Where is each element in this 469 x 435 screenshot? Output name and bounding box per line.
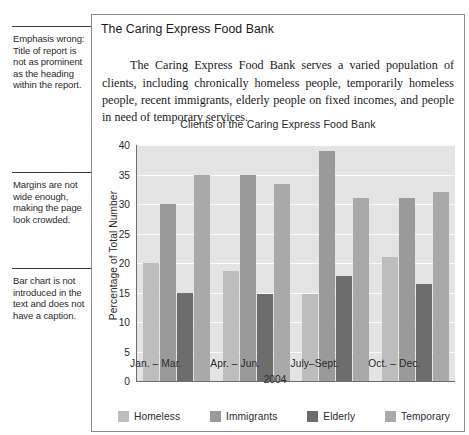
y-axis-tick-label: 20 bbox=[119, 258, 130, 269]
bar-group bbox=[296, 145, 376, 381]
legend-item-homeless: Homeless bbox=[118, 411, 180, 422]
legend-label: Elderly bbox=[323, 411, 355, 422]
bar-temporary-1 bbox=[194, 175, 210, 382]
annotation-text: Emphasis wrong: Title of report is not a… bbox=[13, 33, 89, 91]
y-axis-tick-label: 5 bbox=[124, 346, 130, 357]
legend-swatch-icon bbox=[118, 411, 129, 422]
bar-immigrants-3 bbox=[319, 151, 335, 381]
report-body-paragraph: The Caring Express Food Bank serves a va… bbox=[102, 57, 454, 127]
report-page-panel: The Caring Express Food Bank The Caring … bbox=[91, 14, 465, 432]
x-axis-tick-label: Apr. – Jun. bbox=[210, 358, 260, 369]
bar-temporary-4 bbox=[433, 192, 449, 381]
annotation-leader-line bbox=[12, 172, 92, 173]
annotation-text: Margins are not wide enough, making the … bbox=[13, 179, 89, 225]
legend-item-immigrants: Immigrants bbox=[210, 411, 277, 422]
legend-label: Homeless bbox=[134, 411, 180, 422]
legend-swatch-icon bbox=[210, 411, 221, 422]
bar-immigrants-4 bbox=[399, 198, 415, 381]
annotation-column: Emphasis wrong: Title of report is not a… bbox=[0, 0, 92, 435]
legend-label: Immigrants bbox=[226, 411, 277, 422]
chart-x-axis-ticks: Jan. – Mar.Apr. – Jun.July–Sept.Oct. – D… bbox=[116, 358, 434, 374]
chart-x-axis-label: 2004 bbox=[116, 374, 434, 385]
x-axis-tick-label: Jan. – Mar. bbox=[130, 358, 182, 369]
chart-legend: HomelessImmigrantsElderlyTemporary bbox=[104, 411, 464, 422]
bar-temporary-2 bbox=[274, 184, 290, 381]
annotation-leader-line bbox=[12, 26, 92, 27]
annotation-text: Bar chart is not introduced in the text … bbox=[13, 275, 89, 321]
bar-group bbox=[217, 145, 297, 381]
chart-title: Clients of the Caring Express Food Bank bbox=[92, 118, 464, 130]
legend-swatch-icon bbox=[385, 411, 396, 422]
bar-immigrants-2 bbox=[240, 175, 256, 382]
legend-item-temporary: Temporary bbox=[385, 411, 450, 422]
y-axis-tick-label: 35 bbox=[119, 169, 130, 180]
y-axis-tick-label: 15 bbox=[119, 287, 130, 298]
chart-plot-area bbox=[136, 145, 455, 382]
bar-group bbox=[137, 145, 217, 381]
x-axis-tick-label: July–Sept. bbox=[290, 358, 339, 369]
x-axis-tick-label: Oct. – Dec. bbox=[368, 358, 420, 369]
bar-group bbox=[376, 145, 456, 381]
bar-immigrants-1 bbox=[160, 204, 176, 381]
y-axis-tick-label: 10 bbox=[119, 317, 130, 328]
legend-label: Temporary bbox=[401, 411, 450, 422]
y-axis-tick-label: 30 bbox=[119, 199, 130, 210]
report-title: The Caring Express Food Bank bbox=[101, 22, 274, 37]
chart-y-axis-ticks: 0510152025303540 bbox=[112, 145, 134, 381]
annotation-leader-line bbox=[12, 268, 92, 269]
legend-item-elderly: Elderly bbox=[307, 411, 355, 422]
y-axis-tick-label: 40 bbox=[119, 140, 130, 151]
legend-swatch-icon bbox=[307, 411, 318, 422]
bar-chart: Clients of the Caring Express Food Bank … bbox=[92, 118, 464, 431]
bar-temporary-3 bbox=[353, 198, 369, 381]
y-axis-tick-label: 25 bbox=[119, 228, 130, 239]
